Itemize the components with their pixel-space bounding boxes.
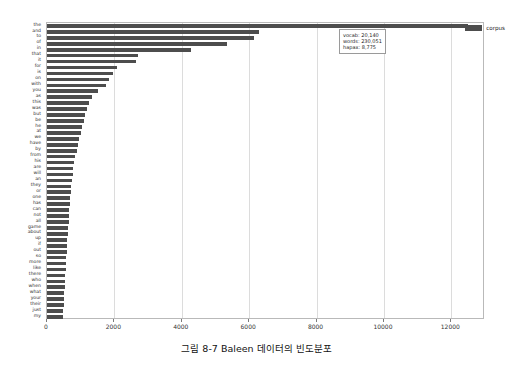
y-label-has: has <box>33 201 41 206</box>
bar-not <box>47 214 69 218</box>
bar-out <box>47 250 67 254</box>
y-label-was: was <box>32 106 41 111</box>
y-label-when: when <box>29 284 41 289</box>
y-label-one: one <box>32 195 41 200</box>
y-label-the: the <box>33 23 41 28</box>
bar-more <box>47 262 66 266</box>
y-label-this: this <box>33 100 41 105</box>
y-label-more: more <box>29 260 41 265</box>
bar-about <box>47 232 68 236</box>
y-label-but: but <box>33 112 41 117</box>
y-label-that: that <box>32 52 41 57</box>
y-label-in: in <box>37 46 41 51</box>
y-label-and: and <box>32 29 41 34</box>
y-label-there: there <box>29 272 41 277</box>
bar-it <box>47 60 136 64</box>
y-label-about: about <box>28 230 41 235</box>
bar-your <box>47 297 64 301</box>
y-label-he: he <box>35 124 41 129</box>
y-label-who: who <box>32 278 41 283</box>
x-tick-mark-10000 <box>383 319 384 322</box>
x-tick-mark-2000 <box>113 319 114 322</box>
y-label-their: their <box>30 302 41 307</box>
y-label-what: what <box>30 290 41 295</box>
y-label-is: is <box>37 70 41 75</box>
bar-you <box>47 89 98 93</box>
x-axis: 020004000600080001000012000 <box>46 319 484 337</box>
y-label-just: just <box>33 308 41 313</box>
y-label-an: an <box>35 177 41 182</box>
y-label-from: from <box>30 153 41 158</box>
x-tick-label-2000: 2000 <box>106 323 121 330</box>
y-label-with: with <box>31 82 41 87</box>
y-label-on: on <box>35 76 41 81</box>
x-tick-label-8000: 8000 <box>308 323 323 330</box>
y-label-or: or <box>36 189 41 194</box>
figure-container: theandtoofinthatitforisonwithyouasthiswa… <box>0 0 513 365</box>
bar-for <box>47 66 117 70</box>
bar-are <box>47 167 73 171</box>
bar-an <box>47 179 72 183</box>
y-label-all: all <box>36 219 41 224</box>
legend-swatch-corpus <box>465 25 482 31</box>
figure-caption: 그림 8-7 Baleen 데이터의 빈도분포 <box>0 343 513 355</box>
plot-area <box>46 22 484 319</box>
y-label-of: of <box>37 40 41 45</box>
bar-was <box>47 107 87 111</box>
bar-by <box>47 149 77 153</box>
bar-game <box>47 226 68 230</box>
bar-the <box>47 24 468 28</box>
bar-if <box>47 244 67 248</box>
bar-and <box>47 30 259 34</box>
bar-can <box>47 208 69 212</box>
y-label-out: out <box>33 248 41 253</box>
stats-annotation: vocab: 20,140 words: 230,051 hapax: 8,77… <box>339 29 386 54</box>
bar-on <box>47 78 109 82</box>
bar-be <box>47 119 84 123</box>
x-tick-mark-8000 <box>316 319 317 322</box>
y-label-game: game <box>28 225 41 230</box>
stat-hapax: hapax: 8,775 <box>343 44 382 50</box>
y-label-at: at <box>36 129 41 134</box>
bar-all <box>47 220 69 224</box>
y-label-my: my <box>34 314 41 319</box>
y-axis-labels: theandtoofinthatitforisonwithyouasthiswa… <box>0 22 44 319</box>
legend: corpus <box>465 25 505 31</box>
y-label-it: it <box>38 58 41 63</box>
bar-as <box>47 95 92 99</box>
y-label-we: we <box>34 135 41 140</box>
bar-his <box>47 161 74 165</box>
bar-their <box>47 303 64 307</box>
bar-of <box>47 42 227 46</box>
y-label-not: not <box>33 213 41 218</box>
bar-who <box>47 280 65 284</box>
bar-is <box>47 72 113 76</box>
bar-with <box>47 84 106 88</box>
bar-one <box>47 196 70 200</box>
y-label-as: as <box>36 94 41 99</box>
x-tick-mark-6000 <box>248 319 249 322</box>
bar-we <box>47 137 79 141</box>
bar-what <box>47 291 64 295</box>
bar-like <box>47 268 66 272</box>
x-tick-label-12000: 12000 <box>441 323 460 330</box>
x-tick-mark-12000 <box>450 319 451 322</box>
y-label-like: like <box>33 266 41 271</box>
bar-so <box>47 256 66 260</box>
bar-when <box>47 285 65 289</box>
x-tick-mark-4000 <box>181 319 182 322</box>
bar-this <box>47 101 89 105</box>
y-label-can: can <box>33 207 41 212</box>
y-label-are: are <box>34 165 41 170</box>
bar-at <box>47 131 81 135</box>
bar-just <box>47 309 63 313</box>
bar-to <box>47 36 254 40</box>
y-label-up: up <box>35 236 41 241</box>
y-label-for: for <box>35 64 41 69</box>
y-label-you: you <box>33 88 41 93</box>
y-label-if: if <box>38 242 41 247</box>
y-label-will: will <box>33 171 41 176</box>
x-tick-label-10000: 10000 <box>373 323 392 330</box>
bar-have <box>47 143 78 147</box>
bar-from <box>47 155 75 159</box>
